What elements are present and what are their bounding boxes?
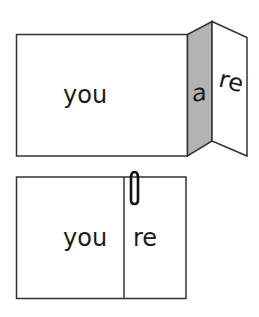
top-figure: you a re bbox=[17, 22, 248, 157]
bottom-figure: you re bbox=[17, 172, 187, 299]
top-fold-label: a bbox=[192, 78, 207, 108]
folded-card-diagram: you a re you re bbox=[0, 0, 259, 317]
bottom-right-label: re bbox=[133, 224, 157, 252]
bottom-left-label: you bbox=[63, 224, 107, 252]
top-left-label: you bbox=[63, 81, 107, 109]
